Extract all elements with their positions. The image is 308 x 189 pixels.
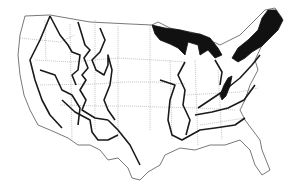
us-region-map (0, 0, 308, 189)
highlighted-regions (152, 10, 283, 100)
northern-great-lakes-region (152, 25, 222, 58)
central-appalachian-region (220, 76, 232, 100)
